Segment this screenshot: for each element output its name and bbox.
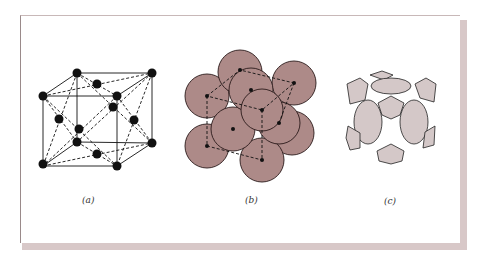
panel-a-label: (a) xyxy=(82,195,94,205)
panel-c-label: (c) xyxy=(384,196,396,206)
panel-c-unit-cell xyxy=(346,71,436,164)
panel-b-label: (b) xyxy=(245,195,258,205)
panel-b-spheres xyxy=(185,50,316,182)
figure-canvas xyxy=(0,0,479,265)
panel-a-lattice xyxy=(39,69,157,171)
